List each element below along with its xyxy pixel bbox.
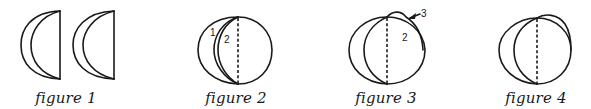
figure-2-label-1: 1 (210, 28, 216, 38)
figure-3-caption: figure 3 (336, 89, 436, 107)
figure-4-caption: figure 4 (486, 89, 586, 107)
half-moon-left (21, 11, 60, 79)
figure-2-caption: figure 2 (186, 89, 286, 107)
arrowhead-icon (408, 13, 416, 19)
figure-1-caption: figure 1 (16, 89, 116, 107)
figure-4-drawing (499, 15, 571, 84)
figure-3-label-2: 2 (402, 33, 408, 43)
half-moon-right (73, 11, 114, 79)
figure-3-drawing (349, 12, 425, 84)
figure-strip: 1 2 3 2 figure 1 figure 2 figure 3 figur… (0, 0, 591, 109)
figure-2-label-2: 2 (224, 35, 230, 45)
figure-3-label-3: 3 (421, 9, 427, 19)
figure-1-drawing (21, 11, 114, 79)
